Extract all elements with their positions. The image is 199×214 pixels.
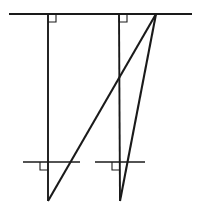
right-vertical-post [119, 14, 120, 201]
diagram-canvas: Geometric line diagram Two vertical post… [0, 0, 199, 214]
long-diagonal-brace [48, 14, 156, 201]
right-angle-marker-top-left-icon [48, 14, 56, 22]
right-angle-markers-group [40, 14, 127, 170]
short-diagonal-brace [120, 14, 156, 201]
diagram-svg: Geometric line diagram Two vertical post… [0, 0, 199, 214]
right-angle-marker-lower-right-icon [112, 162, 120, 170]
diagonal-braces-group [48, 14, 156, 201]
vertical-posts-group [48, 14, 120, 201]
right-angle-marker-top-right-icon [119, 14, 127, 22]
right-angle-marker-lower-left-icon [40, 162, 48, 170]
reference-lines-group [9, 14, 192, 162]
